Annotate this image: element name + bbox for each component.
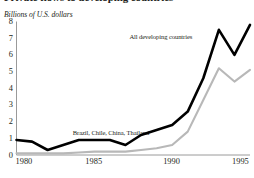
series-line-primary	[17, 25, 251, 150]
chart-figure: Private flows to developing countries Bi…	[0, 0, 254, 178]
plot-area	[0, 0, 254, 178]
